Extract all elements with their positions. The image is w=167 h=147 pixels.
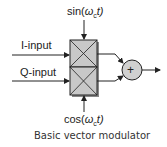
q-input-label: Q-input [20,67,56,78]
sin-suffix: t) [97,5,104,17]
sin-prefix: sin( [67,5,85,17]
cos-suffix: t) [97,113,104,125]
diagram-caption: Basic vector modulator [34,131,150,141]
summer-symbol: + [127,64,134,76]
sin-output-path [97,54,123,63]
mixer-cos [70,67,97,95]
cos-carrier-label: cos(ωct) [64,114,104,127]
cos-output-path [97,76,123,81]
mixer-sin [70,40,97,67]
sin-carrier-label: sin(ωct) [67,6,104,19]
i-input-label: I-input [21,40,52,51]
cos-prefix: cos( [64,113,85,125]
